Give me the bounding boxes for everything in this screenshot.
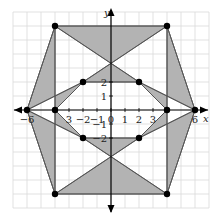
- point-marker: [52, 191, 58, 197]
- point-marker: [164, 191, 170, 197]
- x-arrow-left-icon: [14, 107, 22, 114]
- point-marker: [24, 107, 30, 113]
- point-marker: [164, 107, 170, 113]
- x-tick-label: 6: [192, 114, 198, 125]
- x-tick-label: 3: [66, 114, 72, 125]
- y-tick-label: −2: [92, 133, 107, 144]
- x-tick-label: 0: [108, 114, 114, 125]
- y-axis-label: y: [103, 7, 110, 18]
- point-marker: [80, 135, 86, 141]
- coordinate-plane: xy −63−2−10123621−1−2: [0, 0, 222, 219]
- y-arrow-down-icon: [108, 205, 115, 213]
- x-tick-label: −2: [76, 114, 91, 125]
- x-tick-label: 1: [122, 114, 128, 125]
- axes: xy: [14, 7, 209, 213]
- point-marker: [192, 107, 198, 113]
- y-tick-label: −1: [92, 119, 107, 130]
- point-marker: [80, 79, 86, 85]
- x-tick-label: −6: [20, 114, 35, 125]
- point-marker: [164, 23, 170, 29]
- x-tick-label: 2: [136, 114, 142, 125]
- point-marker: [52, 107, 58, 113]
- point-marker: [52, 23, 58, 29]
- point-marker: [136, 79, 142, 85]
- x-axis-label: x: [203, 113, 209, 124]
- x-tick-label: 3: [150, 114, 156, 125]
- y-tick-label: 1: [101, 91, 107, 102]
- y-tick-label: 2: [101, 77, 107, 88]
- point-marker: [136, 135, 142, 141]
